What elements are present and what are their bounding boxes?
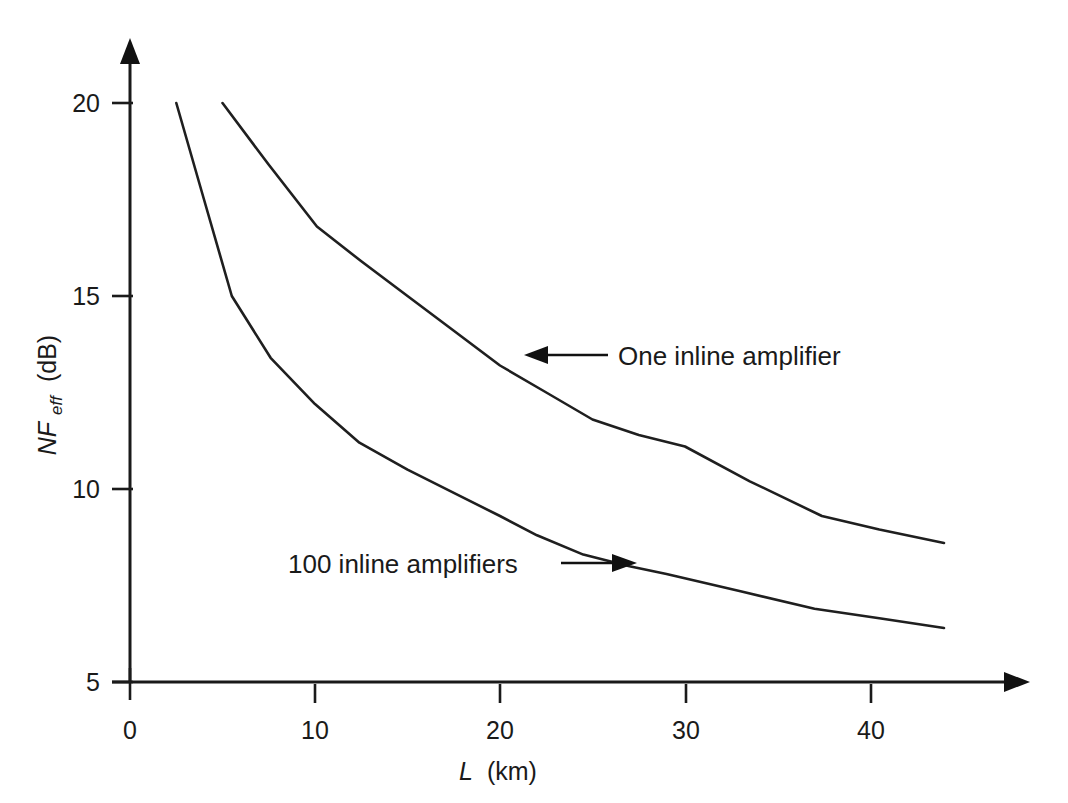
chart-svg: 20 15 10 5 0 10 20 30 40 (0, 0, 1068, 803)
x-tick-label-40: 40 (857, 716, 885, 744)
y-axis-arrow-icon (120, 38, 140, 64)
y-axis-title-subscript: eff (47, 394, 66, 415)
x-tick-marks (130, 668, 871, 703)
x-axis (112, 672, 1030, 692)
annotation-one-inline-amplifier: One inline amplifier (524, 341, 841, 371)
svg-text:L (km): L (km) (459, 757, 537, 785)
y-tick-labels: 20 15 10 5 (72, 89, 100, 696)
right-arrow-icon (612, 554, 637, 572)
figure-page: 20 15 10 5 0 10 20 30 40 (0, 0, 1068, 803)
annotation-100-inline-amplifiers: 100 inline amplifiers (288, 549, 637, 579)
x-tick-label-10: 10 (301, 716, 329, 744)
x-axis-title-units: (km) (487, 757, 537, 785)
left-arrow-icon (524, 346, 548, 364)
x-tick-label-30: 30 (672, 716, 700, 744)
y-tick-label-5: 5 (86, 668, 100, 696)
y-axis-title-symbol: NF (33, 420, 61, 455)
y-axis (120, 38, 140, 682)
y-axis-title: NF eff (dB) (33, 335, 67, 455)
x-axis-arrow-icon (1004, 672, 1030, 692)
x-tick-label-20: 20 (486, 716, 514, 744)
annotation-label-one-inline-amplifier: One inline amplifier (618, 341, 841, 371)
x-tick-label-0: 0 (123, 716, 137, 744)
x-tick-labels: 0 10 20 30 40 (123, 716, 885, 744)
y-tick-label-15: 15 (72, 282, 100, 310)
curve-one-inline-amplifier (223, 103, 945, 543)
y-tick-label-20: 20 (72, 89, 100, 117)
y-tick-label-10: 10 (72, 475, 100, 503)
annotation-label-100-inline-amplifiers: 100 inline amplifiers (288, 549, 518, 579)
x-axis-title: L (km) (459, 757, 537, 785)
chart-figure: 20 15 10 5 0 10 20 30 40 (0, 0, 1068, 803)
y-axis-title-units: (dB) (33, 335, 61, 382)
x-axis-title-symbol: L (459, 757, 473, 785)
svg-text:NF eff (dB: NF eff (dB) (33, 335, 67, 455)
